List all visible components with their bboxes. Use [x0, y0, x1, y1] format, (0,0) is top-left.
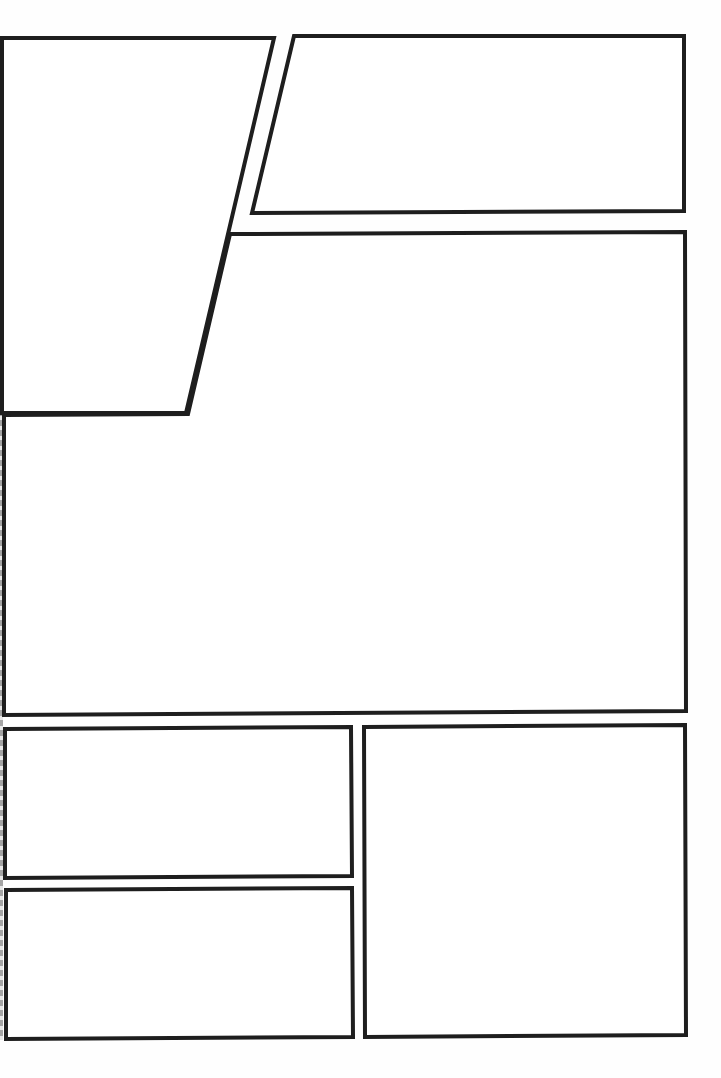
comic-page	[0, 0, 721, 1078]
panel-5	[6, 888, 353, 1039]
panel-4	[5, 727, 352, 878]
panel-layout	[0, 0, 721, 1078]
panel-2	[252, 36, 684, 213]
panel-6	[364, 725, 686, 1037]
